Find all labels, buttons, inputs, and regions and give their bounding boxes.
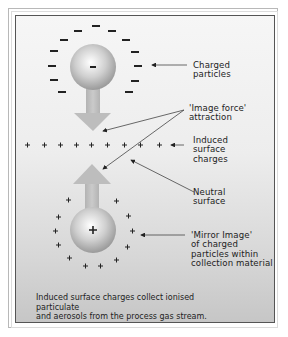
down-arrow-icon [74, 88, 111, 131]
figure-caption: Induced surface charges collect ionised … [36, 293, 236, 322]
label-image-force: 'Image force' attraction [189, 104, 246, 123]
label-neutral-surface: Neutral surface [193, 188, 225, 207]
label-line: particles [193, 70, 231, 79]
up-arrow-icon [73, 164, 111, 210]
label-line: surface [193, 197, 225, 206]
caption-line: Induced surface charges collect ionised … [36, 293, 236, 312]
charged-particle-sphere [70, 44, 116, 90]
caption-line: and aerosols from the process gas stream… [36, 312, 236, 322]
label-line: collection material [191, 259, 273, 268]
label-charged-particles: Charged particles [193, 61, 231, 80]
induced-surface-charges [25, 143, 162, 148]
label-induced-surface-charges: Induced surface charges [193, 136, 228, 164]
label-line: attraction [189, 113, 246, 122]
electrostatic-diagram [0, 0, 288, 337]
label-line: charges [193, 155, 228, 164]
label-mirror-image: 'Mirror Image' of charged particles with… [191, 231, 273, 269]
leader-lines [103, 65, 194, 235]
mirror-image-sphere [70, 207, 116, 253]
